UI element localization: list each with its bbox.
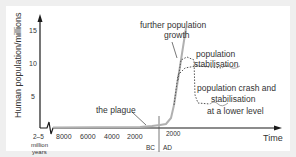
x-tick-4000: 4000 (104, 133, 120, 140)
x-tick-2000bc: 2000 (127, 133, 143, 140)
annotation-crash-3: at a lower level (207, 106, 264, 116)
bc-label: BC (146, 144, 155, 151)
y-tick-15: 15 (29, 27, 37, 34)
y-axis-label: Human population/millions (13, 12, 23, 118)
ad-label: AD (163, 144, 172, 151)
y-axis-arrow-icon (38, 14, 43, 22)
annotation-growth-1: further population (140, 20, 206, 30)
x-tick-myears: 2–5 (33, 133, 44, 140)
x-axis-label: Time (263, 133, 283, 143)
x-tick-myears-2: million (31, 142, 48, 148)
growth-leader (172, 42, 177, 58)
annotation-crash-2: stabilisation (211, 94, 256, 104)
x-tick-2000ad: 2000 (166, 130, 181, 137)
annotation-plague: the plague (96, 105, 136, 115)
annotation-growth-2: growth (164, 30, 190, 40)
y-tick-10: 10 (29, 60, 37, 67)
annotation-stab-2: stabilisation (194, 59, 239, 69)
x-tick-myears-3: years (32, 149, 47, 155)
x-tick-6000: 6000 (80, 133, 96, 140)
x-axis-arrow-icon (274, 126, 282, 131)
annotation-crash-1: population crash and (197, 83, 276, 93)
annotation-stab-1: population (196, 49, 236, 59)
y-tick-5: 5 (31, 93, 35, 100)
population-chart: 15 10 5 Human population/millions 2–5 mi… (0, 0, 296, 157)
x-tick-8000: 8000 (56, 133, 72, 140)
